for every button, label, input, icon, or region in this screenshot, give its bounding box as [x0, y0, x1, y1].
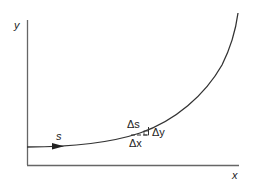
- y-axis-label: y: [13, 19, 21, 31]
- delta-y-label: Δy: [152, 126, 165, 138]
- curve-label-s: s: [56, 130, 62, 142]
- delta-s-label: Δs: [127, 118, 140, 130]
- x-axis-label: x: [231, 169, 238, 181]
- delta-x-label: Δx: [129, 137, 142, 149]
- arc-length-diagram: y x s Δs Δy Δx: [0, 0, 257, 187]
- arrow-right-icon: [52, 143, 64, 150]
